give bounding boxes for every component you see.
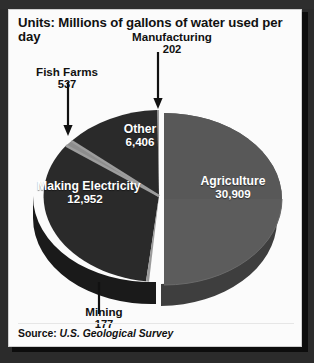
callout-value-fish-farms: 537 <box>19 78 115 90</box>
chart-card: Units: Millions of gallons of water used… <box>8 9 302 347</box>
slice-value-agriculture: 30,909 <box>179 188 287 201</box>
callout-value-manufacturing: 202 <box>117 43 227 55</box>
callout-label-mining: Mining 177 <box>69 306 139 331</box>
outer-frame: Units: Millions of gallons of water used… <box>0 0 314 363</box>
callout-arrow-manufacturing <box>153 52 162 109</box>
source-prefix: Source: <box>18 328 57 339</box>
slice-label-other: Other 6,406 <box>104 123 176 149</box>
cropped-top-banner <box>0 0 314 9</box>
source-divider <box>18 323 294 324</box>
source-name: U.S. Geological Survey <box>60 328 174 339</box>
slice-label-agriculture: Agriculture 30,909 <box>179 175 287 201</box>
callout-name-manufacturing: Manufacturing <box>117 31 227 43</box>
slice-value-other: 6,406 <box>104 136 176 149</box>
slice-value-making-electricity: 12,952 <box>37 193 133 206</box>
slice-label-making-electricity: Making Electricity 12,952 <box>37 180 133 206</box>
chart-stage: Manufacturing 202 Fish Farms 537 Mining … <box>9 10 302 347</box>
callout-name-mining: Mining <box>69 306 139 318</box>
callout-name-fish-farms: Fish Farms <box>19 66 115 78</box>
callout-label-fish-farms: Fish Farms 537 <box>19 66 115 91</box>
callout-label-manufacturing: Manufacturing 202 <box>117 31 227 56</box>
source-note: Source: U.S. Geological Survey <box>18 328 173 339</box>
